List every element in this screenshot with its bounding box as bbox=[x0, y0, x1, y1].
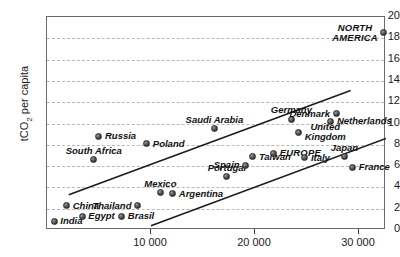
y-axis-title: tCO2 per capita bbox=[18, 29, 33, 179]
data-point-label: France bbox=[359, 162, 390, 172]
data-point-label: Argentina bbox=[179, 189, 223, 199]
x-tick-label: 20 000 bbox=[237, 236, 271, 248]
data-point[interactable] bbox=[270, 150, 277, 157]
plot-area: IndiaChinaEgyptSouth AfricaRussiaBrasilT… bbox=[46, 16, 385, 229]
data-point-label: Thailand bbox=[92, 201, 131, 211]
data-point-label: Denmark bbox=[289, 109, 330, 119]
data-point[interactable] bbox=[143, 140, 150, 147]
data-point[interactable] bbox=[341, 153, 348, 160]
data-point-label: South Africa bbox=[66, 146, 122, 156]
data-point[interactable] bbox=[249, 153, 256, 160]
y-gridline bbox=[47, 102, 384, 103]
x-tick-mark bbox=[254, 229, 255, 234]
data-point[interactable] bbox=[95, 133, 102, 140]
y-gridline bbox=[47, 60, 384, 61]
data-point[interactable] bbox=[157, 189, 164, 196]
data-point-label: NORTHAMERICA bbox=[332, 23, 378, 43]
data-point-label: Egypt bbox=[88, 211, 114, 221]
y-gridline bbox=[47, 81, 384, 82]
data-point[interactable] bbox=[349, 164, 356, 171]
data-point[interactable] bbox=[51, 218, 58, 225]
data-point[interactable] bbox=[223, 173, 230, 180]
data-point-label: Mexico bbox=[144, 179, 176, 189]
data-point[interactable] bbox=[242, 162, 249, 169]
data-point[interactable] bbox=[295, 129, 302, 136]
chart-page: tCO2 per capita 0246810121416182010 0002… bbox=[0, 0, 400, 257]
x-tick-label: 10 000 bbox=[133, 236, 167, 248]
data-point[interactable] bbox=[118, 213, 125, 220]
x-tick-mark bbox=[358, 229, 359, 234]
data-point-label: Spain bbox=[214, 160, 240, 170]
data-point[interactable] bbox=[211, 125, 218, 132]
x-tick-label: 30 000 bbox=[341, 236, 375, 248]
data-point[interactable] bbox=[90, 156, 97, 163]
data-point[interactable] bbox=[301, 154, 308, 161]
data-point-label: Italy bbox=[311, 153, 330, 163]
data-point-label: Brasil bbox=[128, 211, 154, 221]
data-point[interactable] bbox=[134, 202, 141, 209]
data-point-label: Netherlands bbox=[337, 116, 392, 126]
data-point-label: Japan bbox=[331, 143, 358, 153]
data-point-label: Saudi Arabia bbox=[186, 115, 244, 125]
x-tick-mark bbox=[150, 229, 151, 234]
data-point-label: Russia bbox=[105, 131, 136, 141]
data-point-label: Poland bbox=[153, 139, 185, 149]
data-point[interactable] bbox=[79, 213, 86, 220]
data-point[interactable] bbox=[169, 190, 176, 197]
